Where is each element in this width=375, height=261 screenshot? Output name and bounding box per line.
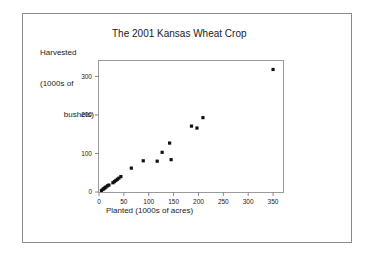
chart-page: Harvested (1000s of bushels) The 2001 Ka… xyxy=(0,0,375,261)
data-point xyxy=(130,167,133,170)
x-axis-ticks: 050100150200250300350 xyxy=(97,192,279,205)
data-point xyxy=(170,158,173,161)
x-tick-label: 200 xyxy=(193,198,204,205)
x-tick-label: 150 xyxy=(168,198,179,205)
x-tick-label: 350 xyxy=(268,198,279,205)
data-point xyxy=(107,183,110,186)
y-tick-label: 200 xyxy=(81,111,92,118)
x-tick-label: 100 xyxy=(143,198,154,205)
data-point xyxy=(161,151,164,154)
x-tick-label: 50 xyxy=(120,198,128,205)
y-tick-label: 0 xyxy=(88,188,92,195)
data-point xyxy=(195,126,198,129)
y-tick-label: 300 xyxy=(81,73,92,80)
x-axis-label-text: Planted (1000s of acres) xyxy=(106,206,193,215)
data-point xyxy=(271,68,274,71)
data-point xyxy=(119,175,122,178)
x-tick-label: 300 xyxy=(243,198,254,205)
scatter-plot: 050100150200250300350 0100200300 xyxy=(0,0,375,261)
data-point xyxy=(201,116,204,119)
data-point xyxy=(156,160,159,163)
data-point xyxy=(190,125,193,128)
x-tick-label: 0 xyxy=(97,198,101,205)
data-point xyxy=(142,159,145,162)
y-tick-label: 100 xyxy=(81,150,92,157)
x-axis-label: Planted (1000s of acres) xyxy=(0,206,375,215)
x-tick-label: 250 xyxy=(218,198,229,205)
y-axis-ticks: 0100200300 xyxy=(81,73,99,196)
data-point xyxy=(168,141,171,144)
